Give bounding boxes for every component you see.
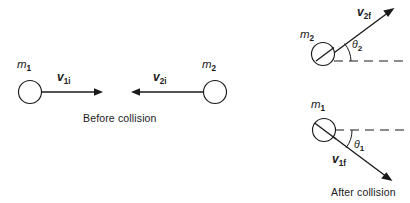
- vector-v1f-label: v1f: [332, 152, 346, 168]
- angle-theta1-label: θ1: [354, 138, 365, 153]
- mass-m2-after-circle: [312, 43, 335, 66]
- after-collision-panel: θ2 m2 v2f θ1 m1: [300, 5, 404, 198]
- before-collision-panel: m1 v1i m2 v2i Before collision: [17, 58, 227, 124]
- mass-m1-before-label: m1: [17, 58, 32, 73]
- mass-m1-before-circle: [19, 81, 42, 104]
- angle-theta1-arc: [346, 130, 352, 148]
- mass-m2-before-circle: [204, 81, 227, 104]
- vector-v1i-arrowhead: [94, 88, 103, 95]
- after-collision-caption: After collision: [331, 186, 396, 198]
- vector-v2i-arrowhead: [131, 88, 140, 95]
- vector-v1i-label: v1i: [57, 70, 71, 86]
- collision-figure: m1 v1i m2 v2i Before collision: [0, 0, 410, 203]
- vector-v2i-label: v2i: [153, 70, 167, 86]
- angle-theta2-arc: [345, 44, 352, 61]
- collision-diagram-canvas: m1 v1i m2 v2i Before collision: [0, 0, 410, 203]
- angle-theta2-label: θ2: [352, 38, 363, 53]
- vector-v2f-label: v2f: [357, 5, 371, 21]
- mass-m2-before-label: m2: [202, 58, 217, 73]
- mass-m1-after-label: m1: [311, 98, 326, 113]
- before-collision-caption: Before collision: [83, 112, 157, 124]
- mass-m2-after-label: m2: [300, 28, 315, 43]
